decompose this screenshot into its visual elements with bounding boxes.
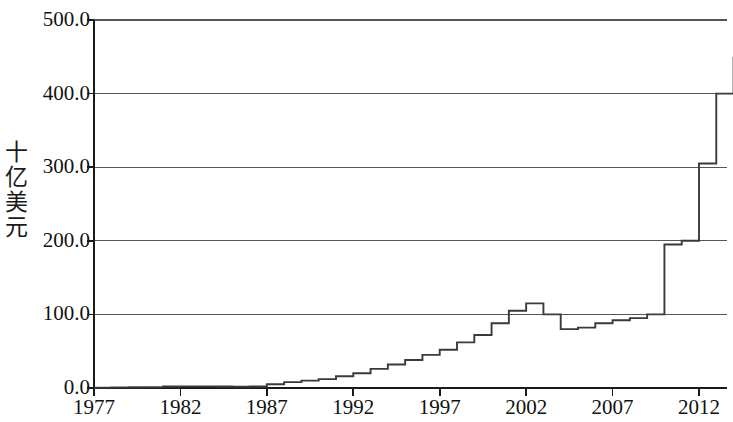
x-axis-tick-labels: 1977 1982 1987 1992 1997 2002 2007 2012 — [0, 395, 733, 422]
x-axis-tick-label: 1982 — [159, 395, 201, 419]
plot-area — [0, 0, 733, 422]
x-axis-tick-label: 2002 — [505, 395, 547, 419]
gridlines — [94, 20, 727, 388]
y-axis-ticks — [87, 20, 94, 388]
x-axis-tick-label: 1997 — [419, 395, 461, 419]
chart-container: 十 亿 美 元 500.0 400.0 300.0 200.0 100.0 0.… — [0, 0, 733, 422]
x-axis-tick-label: 1977 — [73, 395, 115, 419]
x-axis-tick-label: 1992 — [332, 395, 374, 419]
data-series-line — [94, 57, 733, 388]
x-axis-tick-label: 1987 — [246, 395, 288, 419]
x-axis-tick-label: 2007 — [592, 395, 634, 419]
x-axis-tick-label: 2012 — [678, 395, 720, 419]
